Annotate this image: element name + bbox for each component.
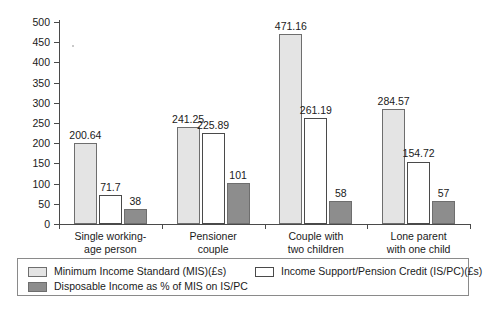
y-axis-tick-label: 200: [16, 138, 50, 148]
legend-swatch-ispc-icon: [255, 267, 274, 277]
y-axis-tick-label: 50: [16, 199, 50, 209]
chart-legend: Minimum Income Standard (MIS)(£s) Income…: [17, 258, 469, 296]
legend-item-mis: Minimum Income Standard (MIS)(£s): [28, 266, 226, 277]
y-axis-tick-label: 350: [16, 78, 50, 88]
y-axis-tick-label: 450: [16, 37, 50, 47]
x-axis-tick: [367, 224, 368, 229]
legend-label-mis: Minimum Income Standard (MIS)(£s): [54, 266, 226, 277]
y-axis-tick-label: 100: [16, 179, 50, 189]
bar-value-label: 225.89: [190, 120, 237, 131]
y-axis-tick-label: 150: [16, 158, 50, 168]
y-axis-tick-label-wrap: 250: [14, 118, 50, 128]
y-axis-tick-label: 300: [16, 98, 50, 108]
bar-value-label: 57: [420, 188, 467, 199]
y-axis-tick-label-wrap: 350: [14, 78, 50, 88]
y-axis-tick-label-wrap: 500: [14, 17, 50, 27]
bar-mis-3: [382, 109, 405, 224]
x-axis-tick: [162, 224, 163, 229]
y-axis-tick-label-wrap: 200: [14, 138, 50, 148]
y-axis-tick-label-wrap: 400: [14, 57, 50, 67]
y-axis-tick-label: 250: [16, 118, 50, 128]
plot-area: 200.6471.738241.25225.89101471.16261.195…: [59, 22, 470, 224]
legend-label-disposable: Disposable Income as % of MIS on IS/PC: [54, 281, 248, 292]
legend-item-disposable: Disposable Income as % of MIS on IS/PC: [28, 281, 248, 292]
bar-value-label: 154.72: [395, 148, 442, 159]
bar-chart: 500450400350300250200150100500 200.6471.…: [0, 0, 486, 311]
x-axis-category-label: Pensioner couple: [162, 230, 265, 255]
bar-value-label: 284.57: [370, 96, 417, 107]
bar-ispc-2: [304, 118, 327, 224]
x-axis-tick: [265, 224, 266, 229]
bar-value-label: 200.64: [62, 130, 109, 141]
bar-value-label: 71.7: [87, 182, 134, 193]
x-axis-category-label: Couple with two children: [265, 230, 368, 255]
bar-value-label: 261.19: [292, 105, 339, 116]
bar-value-label: 471.16: [267, 21, 314, 32]
y-axis-tick-label-wrap: 50: [14, 199, 50, 209]
legend-item-ispc: Income Support/Pension Credit (IS/PC)(£s…: [255, 266, 482, 277]
y-axis-tick-label: 400: [16, 57, 50, 67]
bar-value-label: 101: [215, 170, 262, 181]
bar-mis-2: [279, 34, 302, 224]
y-axis-tick-label-wrap: 150: [14, 158, 50, 168]
legend-label-ispc: Income Support/Pension Credit (IS/PC)(£s…: [281, 266, 482, 277]
x-axis-tick: [470, 224, 471, 229]
bar-value-label: 38: [112, 196, 159, 207]
x-axis-category-label: Single working- age person: [59, 230, 162, 255]
legend-swatch-disposable-icon: [28, 282, 47, 292]
bar-disp-1: [227, 183, 250, 224]
x-axis-tick: [59, 224, 60, 229]
y-axis-tick-label: 0: [16, 219, 50, 229]
y-axis-tick-label-wrap: 300: [14, 98, 50, 108]
x-axis-category-label: Lone parent with one child: [367, 230, 470, 255]
y-axis-tick-label-wrap: 0: [14, 219, 50, 229]
bar-disp-2: [329, 201, 352, 224]
y-axis-tick-label-wrap: 450: [14, 37, 50, 47]
bar-value-label: 58: [317, 188, 364, 199]
y-axis-tick-label-wrap: 100: [14, 179, 50, 189]
bar-disp-3: [432, 201, 455, 224]
legend-swatch-mis-icon: [28, 267, 47, 277]
y-axis-tick-label: 500: [16, 17, 50, 27]
bar-disp-0: [124, 209, 147, 224]
bar-mis-1: [177, 127, 200, 224]
